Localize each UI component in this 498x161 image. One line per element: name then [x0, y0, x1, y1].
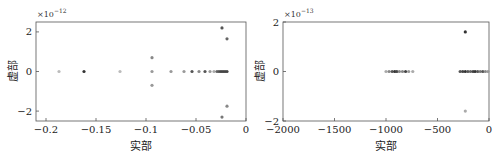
- y-tick-label: 2: [26, 26, 32, 37]
- data-point: [82, 70, 85, 73]
- x-tick-label: −1000: [369, 124, 403, 135]
- x-tick-label: −1500: [318, 124, 352, 135]
- y-multiplier: ×10−13: [284, 7, 314, 19]
- data-point: [212, 70, 215, 73]
- data-point: [169, 70, 172, 73]
- x-tick-label: −0.05: [181, 124, 212, 135]
- data-point: [208, 70, 211, 73]
- data-point: [464, 30, 467, 33]
- data-point: [404, 70, 407, 73]
- data-point: [225, 105, 228, 108]
- x-tick-label: −500: [424, 124, 451, 135]
- data-point: [150, 84, 153, 87]
- data-point: [225, 70, 228, 73]
- y-tick-label: −2: [264, 116, 279, 127]
- data-point: [384, 70, 387, 73]
- x-tick-label: −0.1: [134, 124, 158, 135]
- y-axis-label: 虚部: [6, 60, 20, 82]
- y-tick-label: 2: [273, 17, 279, 28]
- data-points: [57, 26, 228, 118]
- y-axis-label: 虚部: [253, 60, 267, 82]
- x-tick-label: 0: [486, 124, 492, 135]
- data-point: [150, 56, 153, 59]
- data-point: [225, 37, 228, 40]
- x-axis-label: 实部: [375, 139, 397, 153]
- data-point: [387, 70, 390, 73]
- data-point: [190, 70, 193, 73]
- left-scatter-chart: −0.2−0.15−0.1−0.050−202 ×10−12 实部 虚部: [6, 7, 249, 153]
- data-point: [118, 70, 121, 73]
- y-tick-label: −2: [17, 106, 32, 117]
- y-tick-label: 0: [273, 66, 279, 77]
- data-point: [220, 115, 223, 118]
- x-tick-label: −0.2: [34, 124, 58, 135]
- axis-ticks: −0.2−0.15−0.1−0.050−202: [17, 26, 249, 135]
- x-tick-label: 0: [243, 124, 249, 135]
- axis-ticks: −2000−1500−1000−5000−202: [264, 17, 492, 136]
- data-point: [411, 70, 414, 73]
- data-point: [57, 70, 60, 73]
- data-point: [197, 70, 200, 73]
- data-point: [398, 70, 401, 73]
- data-point: [407, 70, 410, 73]
- data-point: [182, 70, 185, 73]
- data-point: [401, 70, 404, 73]
- y-multiplier: ×10−12: [37, 7, 67, 19]
- data-point: [486, 70, 489, 73]
- data-point: [203, 70, 206, 73]
- x-axis-label: 实部: [130, 139, 152, 153]
- data-points: [384, 30, 489, 112]
- figure: −0.2−0.15−0.1−0.050−202 ×10−12 实部 虚部 −20…: [0, 0, 498, 161]
- y-tick-label: 0: [26, 66, 32, 77]
- data-point: [150, 70, 153, 73]
- x-tick-label: −0.15: [81, 124, 112, 135]
- data-point: [220, 26, 223, 29]
- data-point: [464, 110, 467, 113]
- right-scatter-chart: −2000−1500−1000−5000−202 ×10−13 实部 虚部: [253, 7, 492, 153]
